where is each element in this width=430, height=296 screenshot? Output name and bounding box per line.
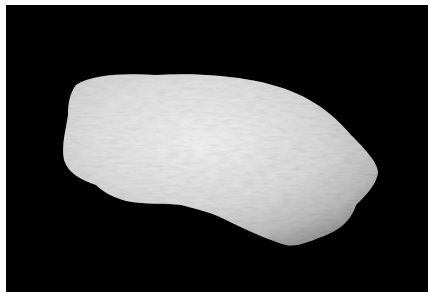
specimen-photo (6, 5, 428, 292)
rock-illustration (6, 5, 428, 292)
rock-highlight (63, 74, 378, 245)
